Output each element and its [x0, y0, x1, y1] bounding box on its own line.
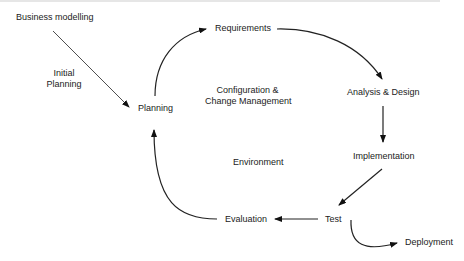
- label-initial: Initial: [44, 68, 84, 79]
- node-environment: Environment: [233, 157, 284, 168]
- label-config-2: Change Management: [205, 96, 290, 107]
- node-requirements: Requirements: [215, 23, 271, 34]
- edge-planning-to-requirements: [155, 29, 206, 96]
- edge-requirements-to-analysis: [277, 29, 382, 79]
- node-deployment: Deployment: [405, 237, 453, 248]
- node-planning: Planning: [138, 103, 173, 114]
- edge-test-to-deployment: [351, 220, 397, 247]
- label-config-1: Configuration &: [205, 85, 290, 96]
- node-implementation: Implementation: [353, 151, 415, 162]
- edge-evaluation-to-planning: [154, 130, 217, 219]
- edge-implementation-to-test: [339, 169, 382, 205]
- label-planning: Planning: [44, 79, 84, 90]
- node-test: Test: [325, 214, 342, 225]
- node-evaluation: Evaluation: [225, 214, 267, 225]
- node-configuration-change-management: Configuration & Change Management: [205, 85, 290, 107]
- node-analysis-design: Analysis & Design: [347, 87, 420, 98]
- node-business-modelling: Business modelling: [16, 12, 94, 23]
- edge-label-initial-planning: Initial Planning: [44, 68, 84, 90]
